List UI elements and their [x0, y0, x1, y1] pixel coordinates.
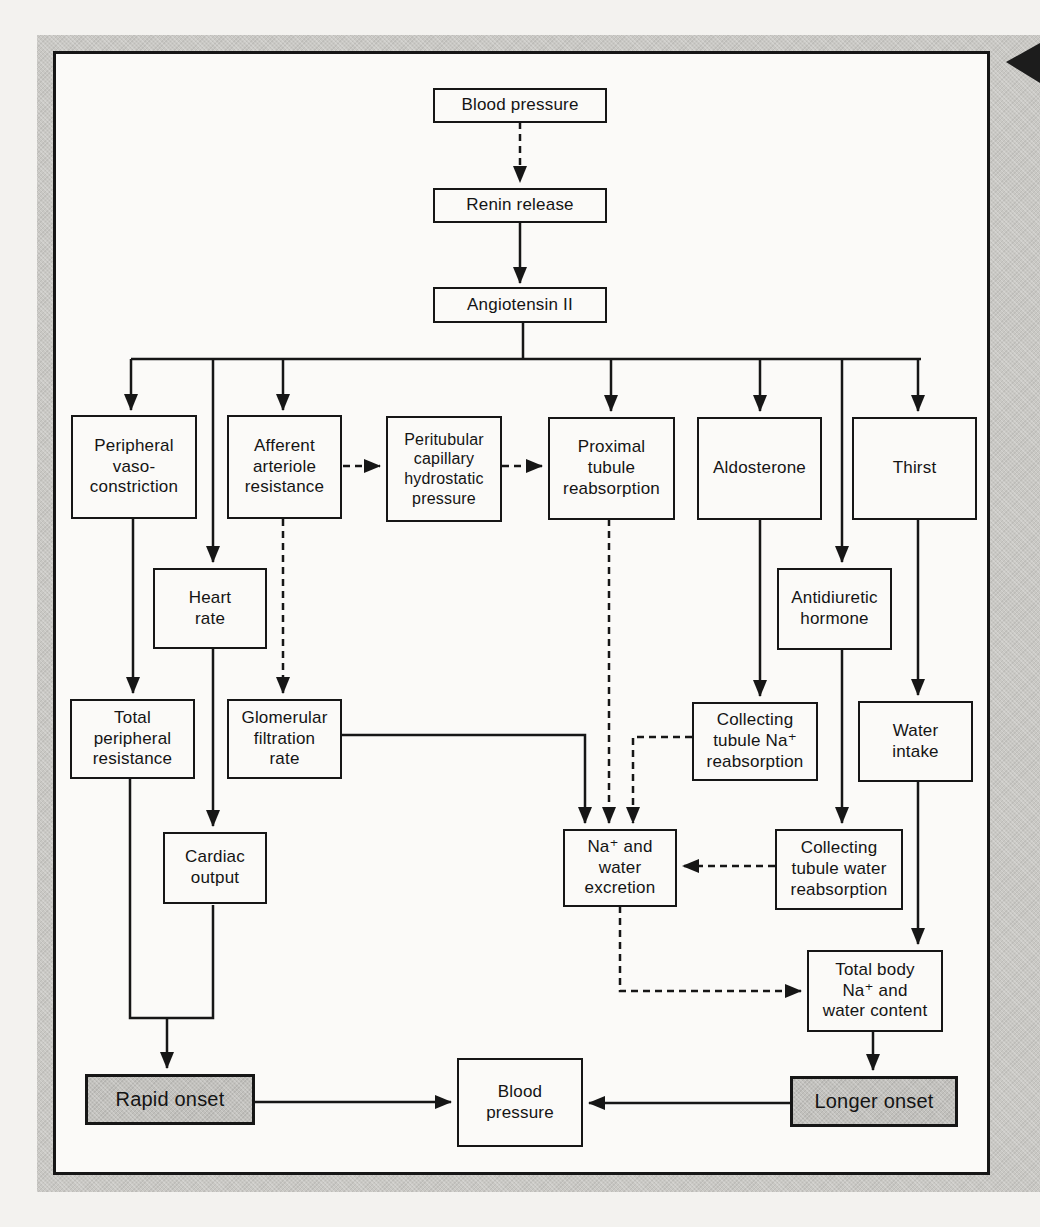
node-blood-pressure-top: Blood pressure	[433, 88, 607, 123]
node-blood-pressure-bottom: Blood pressure	[457, 1058, 583, 1147]
node-longer-onset: Longer onset	[790, 1076, 958, 1127]
edges-solid	[130, 222, 921, 1103]
margin-arrow-icon	[1004, 42, 1040, 84]
node-aldosterone: Aldosterone	[697, 417, 822, 520]
node-proximal-tubule-reabsorption: Proximal tubule reabsorption	[548, 417, 675, 520]
node-angiotensin-ii: Angiotensin II	[433, 287, 607, 323]
node-antidiuretic-hormone: Antidiuretic hormone	[777, 568, 892, 650]
node-total-body-na-water-content: Total body Na⁺ and water content	[807, 950, 943, 1032]
scanned-figure-page: Blood pressure Renin release Angiotensin…	[0, 0, 1040, 1227]
node-cardiac-output: Cardiac output	[163, 832, 267, 904]
node-na-water-excretion: Na⁺ and water excretion	[563, 829, 677, 907]
node-glomerular-filtration-rate: Glomerular filtration rate	[227, 699, 342, 779]
node-total-peripheral-resistance: Total peripheral resistance	[70, 699, 195, 779]
node-heart-rate: Heart rate	[153, 568, 267, 649]
node-rapid-onset: Rapid onset	[85, 1074, 255, 1125]
node-collecting-tubule-water-reabsorption: Collecting tubule water reabsorption	[775, 829, 903, 910]
edges-dashed	[283, 122, 801, 991]
node-collecting-tubule-na-reabsorption: Collecting tubule Na⁺ reabsorption	[692, 702, 818, 781]
node-water-intake: Water intake	[858, 701, 973, 782]
node-thirst: Thirst	[852, 417, 977, 520]
node-afferent-arteriole-resistance: Afferent arteriole resistance	[227, 415, 342, 519]
node-peritubular-capillary-hydrostatic-pressure: Peritubular capillary hydrostatic pressu…	[386, 416, 502, 522]
node-renin-release: Renin release	[433, 188, 607, 223]
node-peripheral-vasoconstriction: Peripheral vaso- constriction	[71, 415, 197, 519]
